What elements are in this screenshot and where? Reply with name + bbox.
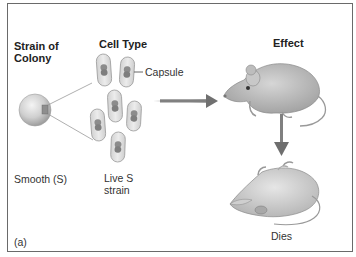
label-cell-desc-line2: strain [104,184,130,197]
arrow-down-icon [274,114,289,156]
label-outcome: Dies [271,230,292,243]
zoom-line-upper [48,83,92,105]
label-capsule: Capsule [145,66,184,79]
bacteria-cells-icon [90,54,142,163]
arrow-right-icon [153,94,218,108]
panel-label: (a) [14,236,27,249]
diagram-artwork [0,0,356,257]
zoom-line-lower [48,114,93,140]
live-mouse-icon [223,64,325,126]
label-strain-name: Smooth (S) [14,173,67,186]
dead-mouse-icon [230,162,320,225]
colony-sphere-icon [19,94,51,126]
